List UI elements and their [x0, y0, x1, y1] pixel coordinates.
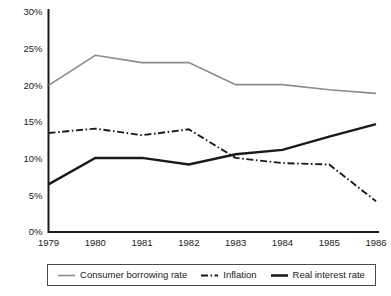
y-tick-label: 0%	[29, 226, 43, 237]
x-tick-label: 1986	[365, 237, 386, 248]
x-tick-label: 1979	[38, 237, 59, 248]
x-tick-label: 1984	[272, 237, 293, 248]
plot-area: 0%5%10%15%20%25%30% 19791980198119821983…	[0, 0, 391, 256]
y-tick-label: 25%	[23, 43, 43, 54]
series-line-real-interest-rate	[49, 124, 377, 184]
y-tick-label: 15%	[23, 116, 43, 127]
legend-swatch-solid-gray-icon	[58, 271, 75, 280]
series-lines	[49, 55, 377, 201]
plot-svg: 0%5%10%15%20%25%30% 19791980198119821983…	[0, 0, 391, 256]
x-tick-label: 1981	[132, 237, 153, 248]
y-tick-label: 10%	[23, 153, 43, 164]
axis-layer	[49, 9, 380, 232]
x-tick-label: 1982	[178, 237, 199, 248]
x-tick-label: 1985	[319, 237, 340, 248]
legend-item-consumer-borrowing-rate: Consumer borrowing rate	[51, 270, 194, 280]
y-tick-label: 20%	[23, 80, 43, 91]
x-tick-labels: 19791980198119821983198419851986	[38, 237, 387, 248]
series-line-consumer-borrowing-rate	[49, 55, 377, 93]
axis-spine	[49, 9, 380, 232]
legend-item-real-interest-rate: Real interest rate	[264, 270, 372, 280]
legend-label-inflation: Inflation	[223, 270, 256, 280]
legend-label-consumer-borrowing-rate: Consumer borrowing rate	[80, 270, 187, 280]
series-line-inflation	[49, 129, 377, 202]
legend-label-real-interest-rate: Real interest rate	[293, 270, 365, 280]
y-tick-labels: 0%5%10%15%20%25%30%	[23, 6, 43, 237]
x-tick-label: 1983	[225, 237, 246, 248]
y-tick-label: 5%	[29, 190, 43, 201]
chart-legend: Consumer borrowing rate Inflation Real i…	[47, 264, 376, 286]
y-tick-label: 30%	[23, 6, 43, 17]
line-chart: 0%5%10%15%20%25%30% 19791980198119821983…	[0, 0, 391, 296]
legend-item-inflation: Inflation	[194, 270, 263, 280]
legend-swatch-solid-black-icon	[271, 271, 288, 280]
legend-swatch-dashdot-icon	[201, 271, 218, 280]
x-tick-label: 1980	[85, 237, 106, 248]
